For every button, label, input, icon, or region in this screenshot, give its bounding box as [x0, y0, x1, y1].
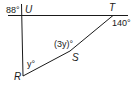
point-label-S: S: [72, 52, 79, 63]
geometry-diagram: 88° U T 140° (3y)° S y° R: [0, 0, 131, 85]
point-label-U: U: [25, 4, 33, 15]
point-label-T: T: [109, 2, 116, 13]
segment-ST: [70, 16, 113, 52]
angle-label-T: 140°: [112, 18, 131, 28]
angle-label-S: (3y)°: [54, 39, 73, 49]
angle-label-R: y°: [27, 59, 36, 69]
point-label-R: R: [14, 71, 21, 82]
angle-label-U: 88°: [6, 5, 20, 15]
line-UR: [22, 4, 24, 76]
